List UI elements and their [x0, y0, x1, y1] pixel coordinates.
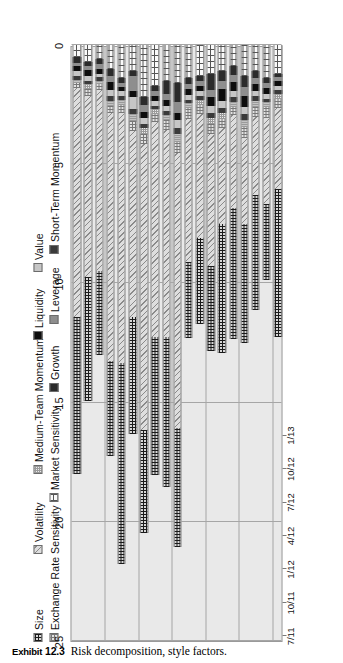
bar-group[interactable]	[273, 45, 281, 641]
bar-segment-size[interactable]	[240, 223, 248, 342]
bar-segment-liquidity[interactable]	[128, 91, 136, 97]
bar-segment-value[interactable]	[184, 95, 192, 100]
bar-segment-liquidity[interactable]	[173, 112, 181, 119]
bar-segment-volatility[interactable]	[173, 153, 181, 427]
bar-segment-volatility[interactable]	[262, 117, 270, 203]
bar-segment-liquidity[interactable]	[95, 68, 103, 73]
bar-segment-value[interactable]	[240, 107, 248, 114]
bar-group[interactable]	[240, 45, 248, 641]
bar-segment-liquidity[interactable]	[72, 66, 80, 71]
bar-segment-volatility[interactable]	[72, 87, 80, 316]
bar-segment-growth[interactable]	[106, 68, 114, 75]
bar-segment-medium-team-momentum[interactable]	[162, 115, 170, 120]
bar-segment-market-sensitivity[interactable]	[173, 45, 181, 83]
bar-group[interactable]	[150, 45, 158, 641]
bar-segment-volatility[interactable]	[117, 112, 125, 362]
bar-segment-growth[interactable]	[95, 59, 103, 64]
bar-segment-exchange-rate-sensitivity[interactable]	[162, 120, 170, 130]
bar-segment-leverage[interactable]	[106, 76, 114, 82]
bar-segment-liquidity[interactable]	[150, 96, 158, 101]
bar-segment-leverage[interactable]	[95, 64, 103, 69]
bar-segment-size[interactable]	[117, 363, 125, 563]
bar-segment-exchange-rate-sensitivity[interactable]	[229, 106, 237, 114]
bar-group[interactable]	[106, 45, 114, 641]
bar-segment-medium-team-momentum[interactable]	[240, 120, 248, 127]
bar-segment-growth[interactable]	[184, 78, 192, 84]
bar-segment-size[interactable]	[173, 427, 181, 546]
bar-group[interactable]	[262, 45, 270, 641]
bar-segment-short-term-momentum[interactable]	[229, 97, 237, 102]
bar-group[interactable]	[217, 45, 225, 641]
bar-segment-volatility[interactable]	[106, 112, 114, 360]
bar-segment-short-term-momentum[interactable]	[117, 96, 125, 100]
bar-segment-size[interactable]	[273, 189, 281, 337]
bar-group[interactable]	[117, 45, 125, 641]
bar-segment-size[interactable]	[229, 208, 237, 339]
bar-segment-volatility[interactable]	[184, 118, 192, 261]
legend-item-value[interactable]: Value	[31, 233, 44, 272]
bar-segment-liquidity[interactable]	[262, 87, 270, 93]
bar-segment-growth[interactable]	[173, 83, 181, 102]
bar-segment-value[interactable]	[128, 97, 136, 109]
bar-segment-leverage[interactable]	[262, 83, 270, 88]
bar-segment-market-sensitivity[interactable]	[229, 45, 237, 66]
bar-segment-exchange-rate-sensitivity[interactable]	[273, 98, 281, 108]
bar-segment-medium-team-momentum[interactable]	[273, 93, 281, 98]
bar-segment-market-sensitivity[interactable]	[184, 45, 192, 78]
bar-segment-short-term-momentum[interactable]	[173, 128, 181, 134]
bar-segment-growth[interactable]	[139, 97, 147, 104]
bar-segment-medium-team-momentum[interactable]	[217, 112, 225, 118]
bar-segment-size[interactable]	[262, 203, 270, 279]
bar-segment-medium-team-momentum[interactable]	[184, 103, 192, 108]
bar-segment-value[interactable]	[95, 73, 103, 77]
bar-segment-exchange-rate-sensitivity[interactable]	[72, 83, 80, 88]
bar-segment-short-term-momentum[interactable]	[217, 108, 225, 113]
bar-segment-leverage[interactable]	[173, 102, 181, 113]
bar-segment-growth[interactable]	[128, 71, 136, 76]
bar-segment-leverage[interactable]	[139, 104, 147, 111]
bar-segment-liquidity[interactable]	[273, 80, 281, 85]
bar-segment-market-sensitivity[interactable]	[251, 45, 259, 71]
bar-segment-leverage[interactable]	[206, 90, 214, 97]
bar-segment-exchange-rate-sensitivity[interactable]	[262, 107, 270, 118]
bar-segment-market-sensitivity[interactable]	[95, 45, 103, 59]
bar-segment-volatility[interactable]	[95, 90, 103, 271]
bar-group[interactable]	[206, 45, 214, 641]
bar-segment-medium-team-momentum[interactable]	[229, 102, 237, 107]
legend-item-size[interactable]: Size	[31, 609, 44, 642]
bar-segment-market-sensitivity[interactable]	[240, 45, 248, 76]
bar-segment-leverage[interactable]	[195, 80, 203, 85]
bar-segment-volatility[interactable]	[150, 122, 158, 337]
bar-segment-market-sensitivity[interactable]	[195, 45, 203, 76]
bar-segment-short-term-momentum[interactable]	[95, 77, 103, 81]
bar-segment-medium-team-momentum[interactable]	[195, 99, 203, 104]
bar-segment-growth[interactable]	[83, 61, 91, 66]
bar-segment-market-sensitivity[interactable]	[83, 45, 91, 62]
bar-segment-exchange-rate-sensitivity[interactable]	[139, 134, 147, 144]
bar-segment-leverage[interactable]	[273, 77, 281, 81]
bar-segment-size[interactable]	[106, 360, 114, 455]
bar-segment-liquidity[interactable]	[240, 96, 248, 107]
bar-segment-value[interactable]	[106, 90, 114, 96]
bar-segment-volatility[interactable]	[217, 128, 225, 223]
bar-segment-medium-team-momentum[interactable]	[262, 102, 270, 107]
bar-segment-growth[interactable]	[72, 56, 80, 62]
bar-segment-leverage[interactable]	[229, 74, 237, 81]
bar-segment-market-sensitivity[interactable]	[217, 45, 225, 71]
bar-segment-leverage[interactable]	[128, 76, 136, 91]
bar-segment-size[interactable]	[184, 261, 192, 337]
bar-segment-leverage[interactable]	[184, 84, 192, 89]
bar-segment-medium-team-momentum[interactable]	[251, 101, 259, 107]
bar-segment-growth[interactable]	[150, 85, 158, 91]
bar-segment-growth[interactable]	[262, 78, 270, 83]
bar-segment-volatility[interactable]	[251, 116, 259, 195]
bar-segment-volatility[interactable]	[139, 143, 147, 429]
bar-segment-leverage[interactable]	[117, 83, 125, 87]
bar-segment-market-sensitivity[interactable]	[262, 45, 270, 78]
bar-segment-value[interactable]	[195, 91, 203, 96]
bar-segment-short-term-momentum[interactable]	[273, 90, 281, 94]
bar-segment-exchange-rate-sensitivity[interactable]	[240, 127, 248, 138]
bar-segment-exchange-rate-sensitivity[interactable]	[95, 84, 103, 90]
bar-segment-leverage[interactable]	[150, 91, 158, 96]
bar-segment-size[interactable]	[72, 316, 80, 473]
